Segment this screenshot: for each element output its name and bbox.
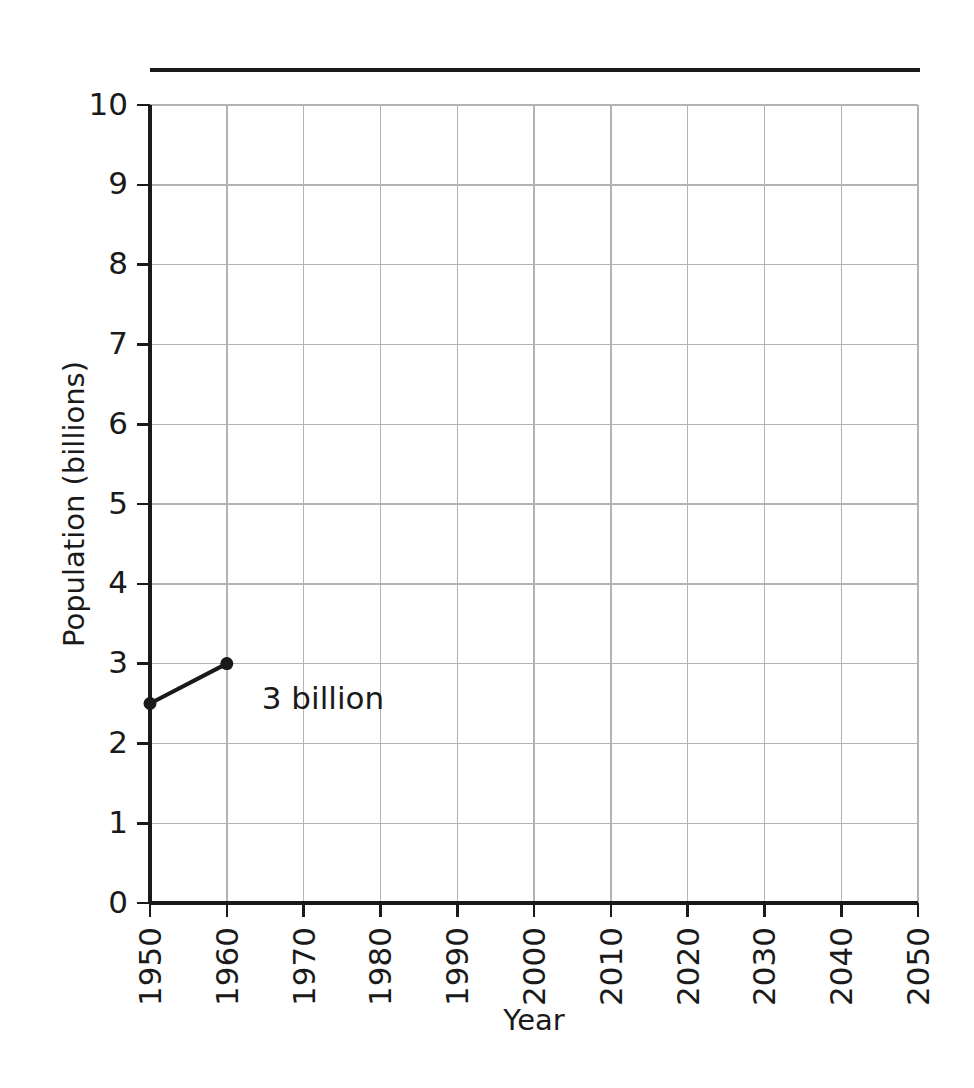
- x-axis-ticks: [150, 903, 918, 917]
- y-axis-ticks: [137, 105, 150, 903]
- y-axis-title: Population (billions): [57, 361, 91, 647]
- y-tick-label: 1: [108, 804, 128, 840]
- x-tick-label: 2040: [823, 927, 859, 1006]
- x-tick-label: 1950: [132, 927, 168, 1006]
- x-tick-label: 1970: [286, 927, 322, 1006]
- x-axis-title: Year: [502, 1003, 564, 1037]
- x-tick-label: 2000: [516, 927, 552, 1006]
- data-point-marker: [220, 657, 233, 670]
- population-line-chart: 012345678910 195019601970198019902000201…: [0, 0, 974, 1088]
- x-axis-tick-labels: 1950196019701980199020002010202020302040…: [132, 927, 936, 1006]
- y-tick-label: 8: [108, 245, 128, 281]
- y-tick-label: 5: [108, 485, 128, 521]
- y-tick-label: 7: [108, 325, 128, 361]
- x-tick-label: 1980: [362, 927, 398, 1006]
- x-tick-label: 2030: [746, 927, 782, 1006]
- y-axis-tick-labels: 012345678910: [89, 86, 128, 920]
- y-tick-label: 2: [108, 724, 128, 760]
- x-tick-label: 2050: [900, 927, 936, 1006]
- data-annotation-label: 3 billion: [262, 680, 384, 716]
- y-tick-label: 10: [89, 86, 128, 122]
- y-tick-label: 3: [108, 644, 128, 680]
- data-point-marker: [144, 697, 157, 710]
- data-series-group: [144, 657, 234, 710]
- chart-container: 012345678910 195019601970198019902000201…: [0, 0, 974, 1088]
- y-tick-label: 6: [108, 405, 128, 441]
- x-tick-label: 2020: [670, 927, 706, 1006]
- x-tick-label: 1990: [439, 927, 475, 1006]
- x-tick-label: 2010: [593, 927, 629, 1006]
- series-line: [150, 664, 227, 704]
- y-tick-label: 9: [108, 165, 128, 201]
- y-tick-label: 0: [108, 884, 128, 920]
- annotation-group: 3 billion: [262, 680, 384, 716]
- y-tick-label: 4: [108, 564, 128, 600]
- x-tick-label: 1960: [209, 927, 245, 1006]
